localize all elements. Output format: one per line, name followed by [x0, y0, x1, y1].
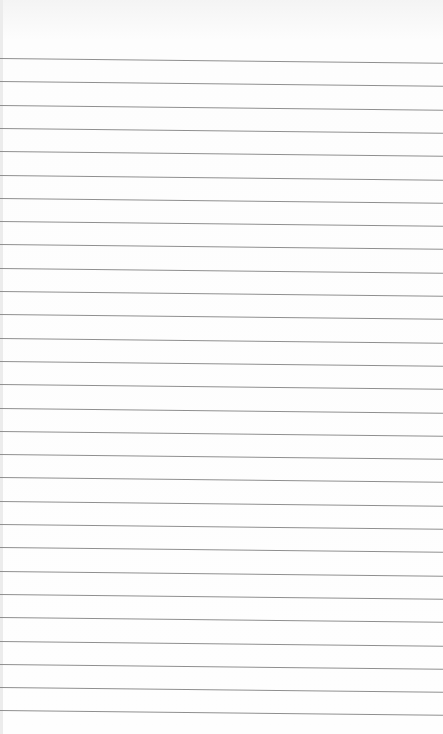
ruled-line	[0, 361, 443, 367]
ruled-line	[0, 105, 443, 111]
ruled-line	[0, 524, 443, 530]
ruled-line	[0, 571, 443, 577]
ruled-line	[0, 408, 443, 414]
ruled-line	[0, 151, 443, 157]
ruled-line	[0, 175, 443, 181]
ruled-line	[0, 687, 443, 693]
ruled-line	[0, 431, 443, 437]
ruled-line	[0, 641, 443, 647]
ruled-line	[0, 81, 443, 87]
ruled-line	[0, 664, 443, 670]
ruled-line	[0, 268, 443, 274]
ruled-line	[0, 128, 443, 134]
ruled-line	[0, 221, 443, 227]
ruled-line	[0, 58, 443, 64]
ruled-line	[0, 291, 443, 297]
ruled-line	[0, 198, 443, 204]
ruled-line	[0, 338, 443, 344]
lined-paper	[0, 0, 443, 734]
ruled-line	[0, 244, 443, 250]
ruled-line	[0, 594, 443, 600]
ruled-line	[0, 314, 443, 320]
ruled-line	[0, 501, 443, 507]
ruled-line	[0, 477, 443, 483]
ruled-line	[0, 617, 443, 623]
ruled-line	[0, 547, 443, 553]
ruled-line	[0, 710, 443, 716]
ruled-line	[0, 384, 443, 390]
ruled-line	[0, 454, 443, 460]
paper-left-edge	[0, 0, 3, 734]
